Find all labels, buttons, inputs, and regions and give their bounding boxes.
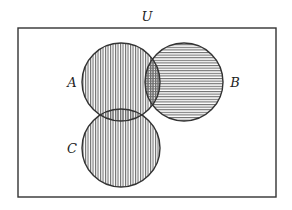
set-b-label: B <box>229 75 240 90</box>
universe-label: U <box>142 9 154 24</box>
venn-diagram: U A B C <box>0 0 292 210</box>
set-c-label: C <box>67 141 77 156</box>
set-a-label: A <box>66 75 76 90</box>
